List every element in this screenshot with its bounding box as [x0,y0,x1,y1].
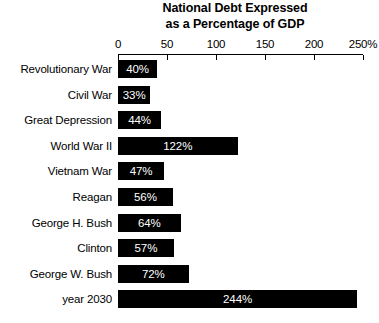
category-label: George W. Bush [0,265,112,283]
category-label: Great Depression [0,111,112,129]
bar-row: Reagan56% [0,188,379,206]
x-axis-tick-mark [167,55,168,60]
bar-row: year 2030244% [0,290,379,308]
category-label: World War II [0,137,112,155]
x-axis-tick-label: 50 [147,38,187,51]
bar-value-label: 56% [118,188,173,206]
bar-chart: National Debt Expressed as a Percentage … [0,0,379,323]
x-axis-tick-label: 100 [196,38,236,51]
bar-value-label: 33% [118,86,150,104]
x-axis-tick-mark [216,55,217,60]
x-axis-tick-label: 250% [343,38,379,51]
bar-row: Great Depression44% [0,111,379,129]
bar-row: George H. Bush64% [0,214,379,232]
bar-value-label: 122% [118,137,238,155]
x-axis-line [118,54,363,55]
bar-row: Vietnam War47% [0,162,379,180]
bar-value-label: 40% [118,60,157,78]
chart-title-line-2: as a Percentage of GDP [104,17,366,33]
bar-value-label: 244% [118,290,357,308]
plot-area: Revolutionary War40%Civil War33%Great De… [0,60,379,318]
chart-title: National Debt Expressed as a Percentage … [104,1,366,32]
category-label: George H. Bush [0,214,112,232]
bar-row: Revolutionary War40% [0,60,379,78]
category-label: Civil War [0,86,112,104]
bar-value-label: 64% [118,214,181,232]
chart-title-line-1: National Debt Expressed [104,1,366,17]
bar-row: Civil War33% [0,86,379,104]
bar-value-label: 47% [118,162,164,180]
x-axis-tick-label: 150 [245,38,285,51]
category-label: Vietnam War [0,162,112,180]
x-axis-tick-mark [314,55,315,60]
category-label: Clinton [0,239,112,257]
x-axis-tick-label: 0 [98,38,138,51]
category-label: Revolutionary War [0,60,112,78]
x-axis-tick-mark [363,55,364,60]
x-axis-tick-mark [118,55,119,60]
bar-row: Clinton57% [0,239,379,257]
bar-value-label: 72% [118,265,189,283]
bar-row: World War II122% [0,137,379,155]
bar-row: George W. Bush72% [0,265,379,283]
x-axis-tick-mark [265,55,266,60]
x-axis-tick-label: 200 [294,38,334,51]
bar-value-label: 44% [118,111,161,129]
category-label: year 2030 [0,290,112,308]
x-axis-tick-labels: 050100150200250% [0,38,379,52]
category-label: Reagan [0,188,112,206]
bar-value-label: 57% [118,239,174,257]
